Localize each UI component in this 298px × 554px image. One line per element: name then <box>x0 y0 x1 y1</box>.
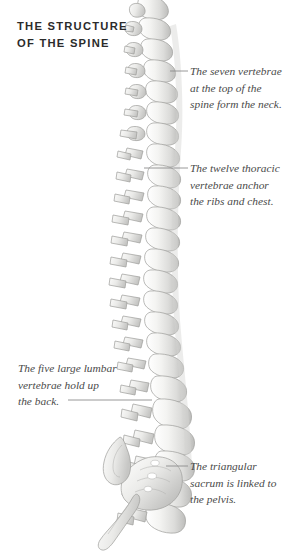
annotation-thoracic: The twelve thoracic vertebrae anchor the… <box>190 160 298 210</box>
annotation-cervical-text: The seven vertebrae at the top of the sp… <box>190 63 298 113</box>
annotation-thoracic-text: The twelve thoracic vertebrae anchor the… <box>190 160 298 210</box>
annotation-sacrum: The triangular sacrum is linked to the p… <box>190 458 298 508</box>
annotation-lumbar-text: The five large lumbar vertebrae hold up … <box>18 360 158 410</box>
figure-title: THE STRUCTURE OF THE SPINE <box>17 18 167 52</box>
spine-figure: THE STRUCTURE OF THE SPINE The seven ver… <box>0 0 298 554</box>
annotation-lumbar: The five large lumbar vertebrae hold up … <box>18 360 158 410</box>
annotation-sacrum-text: The triangular sacrum is linked to the p… <box>190 458 298 508</box>
annotation-cervical: The seven vertebrae at the top of the sp… <box>190 63 298 113</box>
